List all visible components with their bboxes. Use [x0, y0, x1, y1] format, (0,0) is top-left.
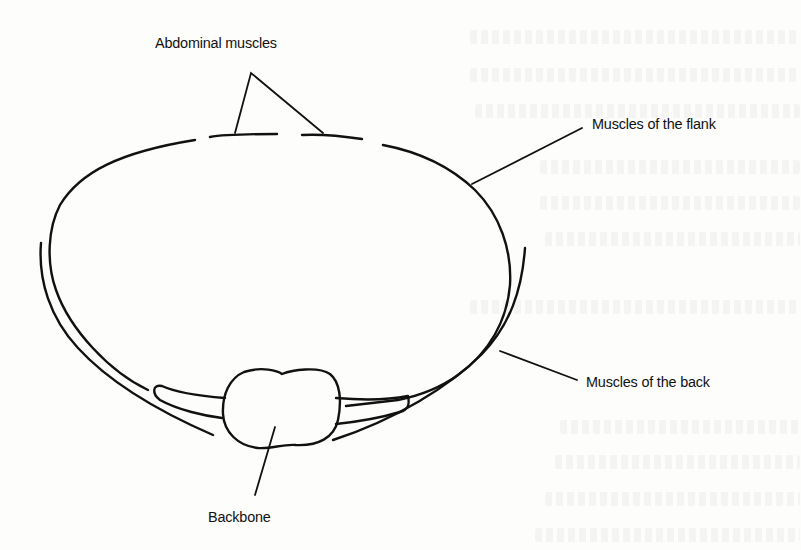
body-outline-left-arc [50, 140, 195, 390]
label-back-muscles: Muscles of the back [586, 373, 710, 391]
diagram-canvas: Abdominal muscles Muscles of the flank M… [0, 0, 801, 550]
label-flank-muscles: Muscles of the flank [592, 115, 716, 133]
label-backbone: Backbone [208, 508, 271, 526]
abdominal-muscle-segment-left [210, 134, 277, 137]
back-muscle-arc-right [333, 248, 525, 440]
label-abdominal-muscles: Abdominal muscles [155, 34, 277, 52]
abdominal-muscle-segment-right [302, 135, 362, 139]
abdominal-cross-section-drawing [0, 0, 801, 550]
backbone-shape [223, 369, 340, 448]
body-outline-right-arc [346, 145, 510, 406]
back-muscles-leader [500, 351, 577, 380]
flank-muscles-leader [472, 128, 582, 184]
backbone-leader [255, 427, 275, 495]
abdominal-muscles-leader [235, 73, 323, 133]
back-muscle-arc-left [41, 243, 213, 435]
